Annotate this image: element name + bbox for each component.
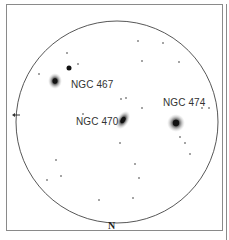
bright-star	[67, 66, 72, 71]
star	[82, 113, 84, 115]
star	[38, 73, 40, 75]
star	[120, 98, 122, 100]
star	[138, 177, 140, 179]
star	[179, 136, 181, 138]
star	[162, 42, 164, 44]
star	[46, 179, 48, 181]
star	[141, 60, 143, 62]
star	[184, 142, 186, 144]
star	[60, 175, 62, 177]
star	[189, 153, 191, 155]
star	[141, 107, 143, 109]
star	[125, 97, 127, 99]
star	[178, 61, 180, 63]
star	[132, 197, 134, 199]
star	[55, 159, 57, 161]
star	[66, 52, 68, 54]
star	[77, 63, 79, 65]
galaxy-core	[53, 78, 58, 84]
label-ngc-474: NGC 474	[163, 97, 205, 108]
star	[119, 142, 121, 144]
star	[208, 107, 210, 109]
north-label: N	[108, 220, 115, 231]
star	[137, 40, 139, 42]
galaxy-core	[173, 120, 179, 126]
star	[134, 163, 136, 165]
star	[98, 199, 100, 201]
label-ngc-470: NGC 470	[76, 116, 118, 127]
label-ngc-467: NGC 467	[71, 79, 113, 90]
